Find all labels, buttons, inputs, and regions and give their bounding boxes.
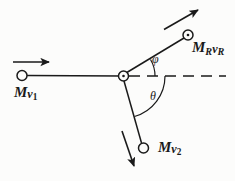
- resultant-velocity-arrow: [164, 10, 198, 30]
- incoming-path-line: [27, 76, 122, 77]
- label-incoming-base: M: [14, 84, 27, 100]
- label-resultant-momentum: MRvR: [192, 40, 224, 57]
- label-deflected-base: M: [158, 139, 171, 155]
- deflected-mass-node: [139, 143, 149, 153]
- label-incoming-index: 1: [33, 92, 38, 102]
- incoming-mass-node: [17, 71, 27, 81]
- label-deflected-index: 2: [177, 147, 182, 157]
- vector-diagram-figure: Mv1 Mv2 MRvR φ θ: [0, 0, 235, 181]
- label-angle-theta: θ: [150, 90, 156, 102]
- collision-vertex-dot: [122, 75, 125, 78]
- label-resultant-index: R: [217, 46, 224, 57]
- deflected-path-line: [124, 81, 142, 143]
- resultant-mass-dot: [187, 34, 190, 37]
- label-deflected-momentum: Mv2: [158, 140, 181, 157]
- label-angle-phi: φ: [152, 53, 159, 65]
- deflected-velocity-arrow: [122, 131, 134, 166]
- label-incoming-momentum: Mv1: [14, 85, 37, 102]
- label-resultant-base: M: [192, 39, 205, 55]
